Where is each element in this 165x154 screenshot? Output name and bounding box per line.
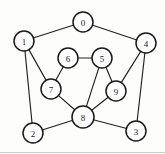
graph-edge-3-8 [93, 120, 126, 129]
graph-edge-8-9 [91, 97, 108, 111]
graph-node-label-3: 3 [134, 127, 139, 137]
graph-node-label-1: 1 [22, 37, 27, 47]
graph-node-label-2: 2 [31, 129, 36, 139]
graph-node-label-4: 4 [144, 39, 149, 49]
graph-edge-3-4 [137, 53, 145, 122]
graph-node-label-9: 9 [114, 87, 119, 97]
graph-node-8[interactable]: 8 [72, 106, 94, 128]
graph-edge-6-7 [56, 66, 64, 80]
graph-node-3[interactable]: 3 [126, 121, 146, 141]
graph-edge-7-8 [58, 95, 75, 110]
node-layer: 0123456789 [14, 12, 156, 143]
graph-figure: 0123456789 [0, 0, 165, 154]
graph-node-label-0: 0 [81, 18, 86, 28]
graph-node-label-8: 8 [81, 113, 86, 123]
graph-canvas: 0123456789 [0, 0, 165, 154]
graph-node-2[interactable]: 2 [23, 123, 43, 143]
graph-node-6[interactable]: 6 [58, 48, 78, 68]
graph-node-5[interactable]: 5 [92, 48, 112, 68]
graph-node-0[interactable]: 0 [73, 12, 93, 32]
graph-node-7[interactable]: 7 [41, 79, 61, 99]
graph-node-1[interactable]: 1 [14, 31, 34, 51]
graph-node-9[interactable]: 9 [106, 81, 126, 101]
graph-node-label-6: 6 [66, 54, 71, 64]
graph-edge-0-1 [33, 25, 74, 38]
graph-node-4[interactable]: 4 [136, 33, 156, 53]
graph-edge-5-8 [86, 67, 99, 107]
graph-node-label-7: 7 [49, 85, 54, 95]
graph-edge-1-2 [25, 51, 32, 124]
graph-edge-0-4 [92, 25, 137, 40]
graph-edge-2-8 [42, 120, 73, 130]
graph-edge-4-9 [121, 51, 141, 83]
graph-edge-1-7 [29, 49, 47, 80]
graph-node-label-5: 5 [100, 54, 105, 64]
graph-edge-5-9 [106, 67, 113, 82]
